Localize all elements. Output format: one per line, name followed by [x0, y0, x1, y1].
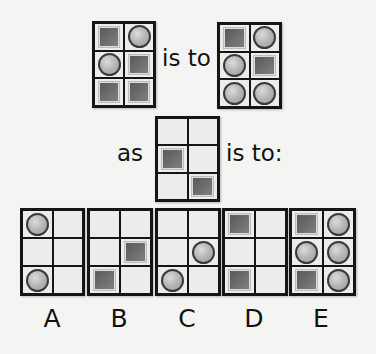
grid-cell — [251, 80, 280, 106]
grid-cell — [158, 119, 187, 144]
square-icon — [94, 270, 115, 290]
grid-cell — [220, 80, 249, 106]
option-d-grid[interactable] — [222, 208, 288, 296]
grid-cell — [189, 211, 218, 237]
option-c-grid[interactable] — [155, 208, 221, 296]
grid-cell — [95, 24, 123, 50]
grid-cell — [225, 267, 254, 293]
grid-cell — [23, 267, 52, 293]
grid-cell — [189, 146, 218, 171]
grid-cell — [54, 267, 83, 293]
circle-icon — [26, 269, 49, 292]
square-icon — [129, 82, 149, 101]
grid-cell — [95, 79, 123, 105]
grid-cell — [324, 239, 354, 265]
question-source-grid — [155, 116, 220, 202]
square-icon — [296, 214, 317, 234]
square-icon — [125, 242, 146, 262]
grid-cell — [292, 211, 322, 237]
grid-cell — [125, 24, 153, 50]
grid-cell — [158, 146, 187, 171]
grid-cell — [251, 53, 280, 79]
option-c-label[interactable]: C — [154, 306, 220, 331]
example-source-grid — [92, 21, 156, 108]
square-icon — [296, 270, 317, 290]
grid-cell — [90, 239, 119, 265]
grid-cell — [225, 239, 254, 265]
example-target-grid — [217, 22, 282, 109]
square-icon — [99, 82, 119, 101]
circle-icon — [295, 241, 318, 264]
option-a-grid[interactable] — [20, 208, 85, 296]
grid-cell — [158, 239, 187, 265]
circle-icon — [128, 25, 151, 48]
grid-cell — [324, 211, 354, 237]
option-b-grid[interactable] — [87, 208, 153, 296]
connector-is-to: is to — [162, 47, 211, 70]
grid-cell — [256, 211, 285, 237]
square-icon — [162, 149, 183, 168]
grid-cell — [189, 267, 218, 293]
grid-cell — [189, 239, 218, 265]
circle-icon — [327, 269, 350, 292]
circle-icon — [223, 82, 246, 105]
option-e-label[interactable]: E — [288, 306, 354, 331]
grid-cell — [121, 267, 150, 293]
grid-cell — [90, 267, 119, 293]
square-icon — [192, 177, 213, 196]
grid-cell — [225, 211, 254, 237]
option-b-label[interactable]: B — [86, 306, 152, 331]
grid-cell — [158, 267, 187, 293]
grid-cell — [324, 267, 354, 293]
grid-cell — [292, 239, 322, 265]
circle-icon — [223, 54, 246, 77]
grid-cell — [23, 239, 52, 265]
grid-cell — [23, 211, 52, 237]
grid-cell — [189, 119, 218, 144]
grid-cell — [158, 174, 187, 199]
grid-cell — [125, 52, 153, 78]
grid-cell — [220, 25, 249, 51]
grid-cell — [90, 211, 119, 237]
square-icon — [254, 56, 275, 76]
option-d-label[interactable]: D — [221, 306, 287, 331]
square-icon — [229, 214, 250, 234]
square-icon — [99, 27, 119, 46]
square-icon — [129, 55, 149, 75]
grid-cell — [54, 211, 83, 237]
connector-as: as — [117, 142, 143, 165]
circle-icon — [253, 82, 276, 105]
grid-cell — [125, 79, 153, 105]
circle-icon — [98, 53, 121, 76]
circle-icon — [327, 213, 350, 236]
grid-cell — [251, 25, 280, 51]
grid-cell — [95, 52, 123, 78]
grid-cell — [292, 267, 322, 293]
grid-cell — [256, 239, 285, 265]
option-a-label[interactable]: A — [19, 306, 85, 331]
option-e-grid[interactable] — [289, 208, 356, 296]
grid-cell — [220, 53, 249, 79]
grid-cell — [189, 174, 218, 199]
grid-cell — [54, 239, 83, 265]
grid-cell — [256, 267, 285, 293]
circle-icon — [253, 26, 276, 49]
circle-icon — [161, 269, 184, 292]
circle-icon — [26, 213, 49, 236]
circle-icon — [327, 241, 350, 264]
grid-cell — [121, 239, 150, 265]
grid-cell — [121, 211, 150, 237]
grid-cell — [158, 211, 187, 237]
circle-icon — [192, 241, 215, 264]
square-icon — [229, 270, 250, 290]
square-icon — [224, 28, 245, 47]
connector-is-to-colon: is to: — [226, 142, 283, 165]
